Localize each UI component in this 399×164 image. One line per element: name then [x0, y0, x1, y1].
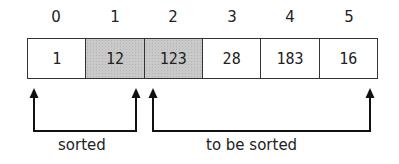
to-be-sorted-label: to be sorted	[206, 136, 297, 154]
unsorted-arrowheads-icon	[149, 88, 375, 98]
unsorted-bracket-icon	[153, 96, 370, 131]
sorted-arrowheads-icon	[30, 88, 141, 98]
array-sort-diagram: 0 1 2 3 4 5 1 12 123 28 183 16 sorted to…	[0, 0, 399, 164]
sorted-bracket-icon	[34, 96, 136, 131]
sorted-label: sorted	[58, 136, 106, 154]
